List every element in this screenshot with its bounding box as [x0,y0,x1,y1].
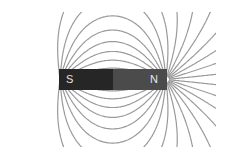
north-pole-label: N [150,69,158,90]
north-pole: N [113,69,167,90]
south-pole: S [59,69,113,90]
bar-magnet: S N [59,69,167,90]
south-pole-label: S [66,69,73,90]
